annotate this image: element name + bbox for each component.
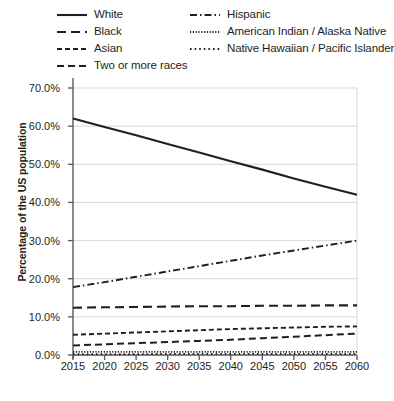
- legend-swatch-dash-dot-icon: [190, 10, 220, 20]
- legend-swatch-medium-dash-icon: [57, 61, 87, 71]
- plot-area: Percentage of the US population 0.0%10.0…: [0, 78, 384, 378]
- legend-item[interactable]: Black: [57, 23, 188, 40]
- legend-swatch-dash-icon: [57, 44, 87, 54]
- legend-item[interactable]: American Indian / Alaska Native: [190, 23, 394, 40]
- series-line: [73, 334, 357, 346]
- legend-label: American Indian / Alaska Native: [227, 26, 386, 38]
- chart-plot-svg: [0, 78, 384, 378]
- chart-legend: WhiteBlackAsianTwo or more races Hispani…: [0, 6, 384, 76]
- legend-column-left: WhiteBlackAsianTwo or more races: [57, 6, 188, 74]
- legend-item[interactable]: Native Hawaiian / Pacific Islander: [190, 40, 394, 57]
- legend-swatch-fine-dot-icon: [190, 27, 220, 37]
- legend-label: White: [94, 9, 123, 21]
- legend-item[interactable]: Asian: [57, 40, 188, 57]
- legend-label: Black: [94, 26, 122, 38]
- legend-item[interactable]: Hispanic: [190, 6, 394, 23]
- series-line: [73, 326, 357, 334]
- legend-swatch-long-dash-icon: [57, 27, 87, 37]
- series-line: [73, 119, 357, 195]
- series-line: [73, 241, 357, 288]
- legend-label: Hispanic: [227, 9, 270, 21]
- legend-label: Asian: [94, 43, 122, 55]
- legend-column-right: HispanicAmerican Indian / Alaska NativeN…: [190, 6, 394, 57]
- legend-item[interactable]: Two or more races: [57, 57, 188, 74]
- series-line: [73, 305, 357, 307]
- legend-item[interactable]: White: [57, 6, 188, 23]
- legend-swatch-dot-icon: [190, 44, 220, 54]
- legend-swatch-solid-icon: [57, 10, 87, 20]
- legend-label: Native Hawaiian / Pacific Islander: [227, 43, 394, 55]
- legend-label: Two or more races: [94, 60, 188, 72]
